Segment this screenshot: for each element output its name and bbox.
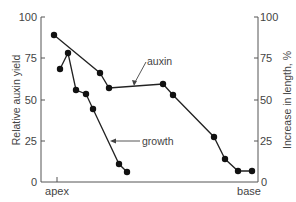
right-tick-75: 75 — [260, 52, 272, 64]
right-tick-0: 0 — [261, 176, 267, 188]
series-auxin — [51, 32, 255, 174]
left-tick-50: 50 — [25, 94, 37, 106]
x-axis: apex base — [41, 177, 261, 197]
right-tick-25: 25 — [260, 135, 272, 147]
left-y-axis: 100 75 50 25 0 Relative auxin yield — [10, 11, 45, 188]
series-growth — [57, 50, 130, 175]
growth-label: growth — [142, 135, 174, 147]
left-tick-25: 25 — [25, 135, 37, 147]
left-axis-title: Relative auxin yield — [10, 55, 22, 146]
left-tick-0: 0 — [31, 176, 37, 188]
x-label-base: base — [237, 185, 261, 197]
right-y-axis: 100 75 50 25 0 Increase in length, % — [254, 11, 293, 188]
dual-axis-line-chart: 100 75 50 25 0 Relative auxin yield apex… — [0, 0, 296, 202]
left-tick-75: 75 — [25, 52, 37, 64]
x-label-apex: apex — [45, 185, 69, 197]
auxin-label: auxin — [147, 55, 172, 67]
annotation-auxin: auxin — [132, 55, 172, 86]
annotation-growth: growth — [110, 135, 174, 147]
left-tick-100: 100 — [19, 11, 37, 23]
right-tick-50: 50 — [260, 94, 272, 106]
right-axis-title: Increase in length, % — [281, 51, 293, 149]
right-tick-100: 100 — [260, 11, 278, 23]
